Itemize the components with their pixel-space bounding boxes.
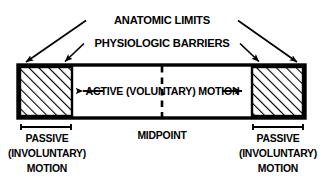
- passive-caption-left-line3: MOTION: [27, 163, 67, 174]
- anatomic-limits-arrow-right: [238, 21, 297, 63]
- passive-bracket-left: [21, 124, 71, 130]
- range-of-motion-diagram: ANATOMIC LIMITS PHYSIOLOGIC BARRIERS ACT…: [0, 0, 324, 182]
- physiologic-barriers-arrow-left: [65, 44, 84, 62]
- passive-caption-left-line1: PASSIVE: [26, 133, 69, 144]
- active-motion-label: ACTIVE (VOLUNTARY) MOTION: [86, 85, 240, 97]
- passive-zone-left: [20, 67, 72, 116]
- passive-caption-right-line3: MOTION: [258, 163, 298, 174]
- passive-caption-right-line2: (INVOLUNTARY): [239, 148, 317, 159]
- midpoint-label: MIDPOINT: [137, 130, 187, 141]
- physiologic-barriers-arrow-right: [240, 44, 259, 62]
- diagram-canvas: ANATOMIC LIMITS PHYSIOLOGIC BARRIERS ACT…: [0, 0, 324, 182]
- passive-caption-left-line2: (INVOLUNTARY): [8, 148, 86, 159]
- anatomic-limits-arrow-left: [26, 21, 86, 63]
- physiologic-barriers-label: PHYSIOLOGIC BARRIERS: [94, 37, 230, 49]
- anatomic-limits-label: ANATOMIC LIMITS: [114, 14, 211, 26]
- passive-bracket-right: [253, 124, 303, 130]
- passive-caption-right-line1: PASSIVE: [257, 133, 300, 144]
- passive-zone-right: [252, 67, 303, 116]
